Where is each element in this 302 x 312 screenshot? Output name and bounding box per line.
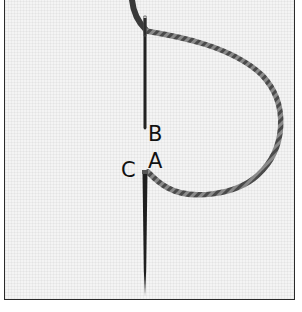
point-label-a: A [148,151,162,172]
point-label-b: B [148,124,162,145]
needle-lower [142,170,148,296]
needle-upper [144,16,147,130]
thread-loop [146,31,281,195]
point-label-c: C [121,160,136,181]
